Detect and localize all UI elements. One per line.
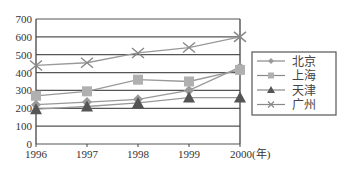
y-tick-label: 600 xyxy=(16,31,33,43)
square-marker xyxy=(235,65,245,75)
y-axis: 0100200300400500600700 xyxy=(16,13,33,150)
legend-label: 上海 xyxy=(292,68,316,83)
x-tick-label: 1998 xyxy=(127,148,150,160)
y-tick-label: 400 xyxy=(16,67,33,79)
square-marker xyxy=(184,77,194,87)
x-tick-label: 1997 xyxy=(76,148,99,160)
y-tick-label: 300 xyxy=(16,84,33,96)
legend: 北京上海天津广州 xyxy=(252,52,336,115)
y-tick-label: 200 xyxy=(16,102,33,114)
series-line xyxy=(36,37,240,66)
x-tick-label: 1996 xyxy=(25,148,48,160)
y-tick-label: 700 xyxy=(16,13,33,25)
legend-label: 广州 xyxy=(292,98,316,112)
x-axis: 19961997199819992000(年) xyxy=(25,144,271,161)
y-tick-label: 100 xyxy=(16,120,33,132)
line-chart: 0100200300400500600700 19961997199819992… xyxy=(0,0,340,174)
square-marker xyxy=(31,91,41,101)
series-3 xyxy=(30,32,246,71)
x-tick-label: 2000(年) xyxy=(230,147,271,161)
legend-label: 天津 xyxy=(292,84,316,98)
legend-label: 北京 xyxy=(292,55,316,69)
x-tick-label: 1999 xyxy=(178,148,201,160)
square-marker xyxy=(82,86,92,96)
square-icon xyxy=(268,73,274,79)
square-marker xyxy=(133,75,143,85)
y-tick-label: 500 xyxy=(16,49,33,61)
